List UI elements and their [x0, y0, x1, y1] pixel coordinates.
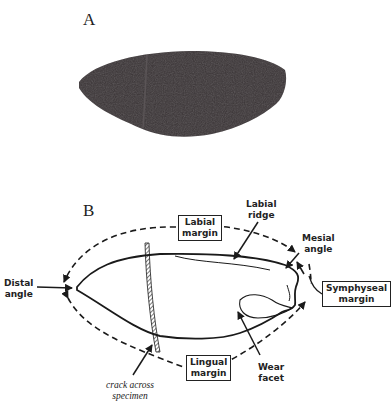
label-line: Labial: [182, 217, 218, 228]
label-line: Mesial: [302, 233, 335, 244]
specimen-outline: [77, 254, 298, 339]
labial-ridge-label: Labial ridge: [246, 199, 277, 221]
specimen-photo: [79, 51, 286, 137]
symphyseal-margin-label: Symphyseal margin: [322, 281, 391, 307]
label-line: crack across: [106, 380, 154, 391]
label-line: angle: [4, 289, 33, 300]
label-line: angle: [302, 244, 335, 255]
pointer-arrows: [37, 222, 299, 375]
label-line: Lingual: [190, 357, 227, 368]
wear-facet-label: Wear facet: [258, 362, 284, 384]
label-line: margin: [182, 228, 218, 239]
label-line: Symphyseal: [326, 283, 387, 294]
margin-arrows: [64, 226, 311, 368]
label-line: margin: [190, 368, 227, 379]
label-line: facet: [258, 373, 284, 384]
lingual-margin-label: Lingual margin: [186, 355, 231, 381]
mesial-angle-label: Mesial angle: [302, 233, 335, 255]
label-line: Labial: [246, 199, 277, 210]
label-line: ridge: [246, 210, 277, 221]
distal-angle-label: Distal angle: [4, 278, 33, 300]
panel-label-b: B: [83, 201, 94, 221]
label-line: specimen: [106, 391, 154, 402]
labial-margin-label: Labial margin: [178, 215, 222, 241]
label-line: Distal: [4, 278, 33, 289]
label-line: Wear: [258, 362, 284, 373]
crack-label: crack across specimen: [106, 380, 154, 402]
label-line: margin: [326, 294, 387, 305]
